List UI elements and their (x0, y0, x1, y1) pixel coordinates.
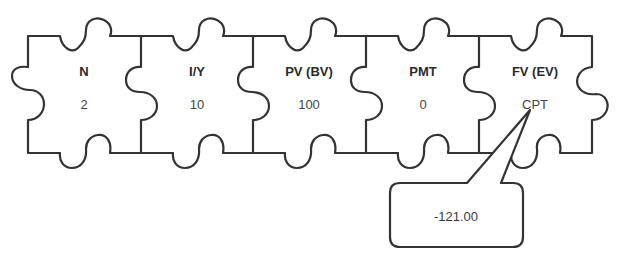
piece-pv-value: 100 (298, 97, 320, 112)
piece-fv-title: FV (EV) (512, 64, 558, 79)
piece-pv-title: PV (BV) (285, 64, 333, 79)
piece-n-title: N (79, 64, 88, 79)
piece-pmt-value: 0 (419, 97, 426, 112)
piece-iy-title: I/Y (189, 64, 205, 79)
piece-n-value: 2 (80, 97, 87, 112)
result-callout-text: -121.00 (434, 209, 478, 224)
piece-iy-value: 10 (190, 97, 204, 112)
puzzle-strip-outline (12, 18, 608, 168)
piece-pmt-title: PMT (409, 64, 436, 79)
piece-fv-value: CPT (522, 97, 548, 112)
puzzle-diagram (0, 0, 623, 259)
